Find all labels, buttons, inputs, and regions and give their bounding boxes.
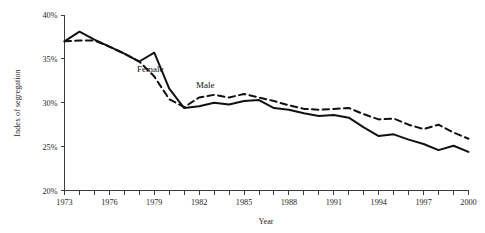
y-tick-label: 20%: [42, 187, 57, 196]
series-group: [65, 32, 469, 152]
x-tick-label: 1973: [56, 198, 72, 207]
series-line-male: [65, 40, 469, 138]
y-axis: 40%35%30%25%20%: [42, 11, 64, 196]
y-tick-label: 30%: [42, 99, 57, 108]
x-tick-label: 1994: [371, 198, 387, 207]
y-tick-group: 40%35%30%25%20%: [42, 11, 64, 196]
y-axis-title: Index of segregation: [13, 69, 22, 136]
series-annotation-male: Male: [196, 80, 215, 90]
x-tick-label: 1985: [236, 198, 252, 207]
series-label-group: FemaleMale: [137, 64, 215, 90]
x-axis: 1973197619791982198519881991199419972000: [56, 191, 476, 207]
x-tick-label: 1976: [101, 198, 117, 207]
x-tick-label: 1988: [281, 198, 297, 207]
series-line-female: [65, 32, 469, 152]
x-tick-label: 1991: [326, 198, 342, 207]
x-axis-title: Year: [258, 217, 273, 226]
segregation-index-line-chart: 40%35%30%25%20% 197319761979198219851988…: [0, 0, 485, 233]
series-annotation-female: Female: [137, 64, 164, 74]
y-tick-label: 35%: [42, 55, 57, 64]
x-tick-label: 1982: [191, 198, 207, 207]
x-tick-label: 2000: [460, 198, 476, 207]
x-tick-label: 1997: [415, 198, 431, 207]
y-tick-label: 25%: [42, 143, 57, 152]
y-tick-label: 40%: [42, 11, 57, 20]
chart-svg: 40%35%30%25%20% 197319761979198219851988…: [0, 0, 485, 233]
x-tick-group: 1973197619791982198519881991199419972000: [56, 191, 476, 207]
x-tick-label: 1979: [146, 198, 162, 207]
